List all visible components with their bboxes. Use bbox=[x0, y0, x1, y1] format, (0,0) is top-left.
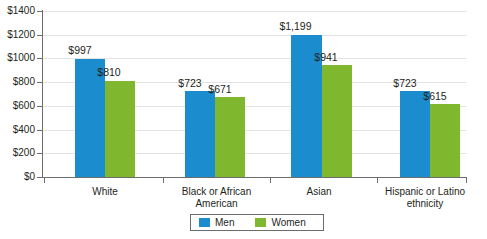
bar-black-men bbox=[185, 91, 215, 177]
y-tick-400 bbox=[37, 130, 43, 131]
y-tick-1000 bbox=[37, 58, 43, 59]
plot-area bbox=[43, 11, 467, 177]
legend-item-women[interactable]: Women bbox=[255, 215, 305, 230]
x-axis-line bbox=[43, 177, 467, 178]
y-label-0: $0 bbox=[0, 172, 35, 182]
value-white-men: $997 bbox=[55, 45, 105, 56]
y-tick-1400 bbox=[37, 11, 43, 12]
x-label-black: Black or African American bbox=[163, 186, 270, 209]
x-separator-left bbox=[44, 178, 45, 183]
legend-label-women: Women bbox=[271, 218, 305, 228]
x-separator-2 bbox=[270, 178, 271, 183]
y-label-200: $200 bbox=[0, 148, 35, 158]
legend-item-men[interactable]: Men bbox=[199, 215, 234, 230]
y-tick-0 bbox=[37, 177, 43, 178]
bar-chart: $1400 $1200 $1000 $800 $600 $400 $200 $0… bbox=[0, 0, 487, 239]
y-tick-1200 bbox=[37, 35, 43, 36]
y-label-600: $600 bbox=[0, 101, 35, 111]
y-tick-200 bbox=[37, 153, 43, 154]
value-asian-women: $941 bbox=[301, 52, 351, 63]
bar-white-women bbox=[105, 81, 135, 177]
legend-swatch-men-icon bbox=[199, 218, 210, 227]
value-asian-men: $1,199 bbox=[268, 21, 323, 32]
value-hispanic-men: $723 bbox=[380, 78, 430, 89]
y-label-1200: $1200 bbox=[0, 30, 35, 40]
y-label-400: $400 bbox=[0, 125, 35, 135]
y-label-1400: $1400 bbox=[0, 6, 35, 16]
value-hispanic-women: $615 bbox=[410, 91, 460, 102]
y-tick-800 bbox=[37, 82, 43, 83]
y-tick-600 bbox=[37, 106, 43, 107]
x-label-hispanic: Hispanic or Latino ethnicity bbox=[370, 186, 480, 209]
bar-hispanic-women bbox=[430, 104, 460, 177]
x-separator-1 bbox=[163, 178, 164, 183]
x-label-asian: Asian bbox=[279, 186, 359, 198]
x-label-white: White bbox=[65, 186, 145, 198]
y-label-1000: $1000 bbox=[0, 53, 35, 63]
value-black-women: $671 bbox=[195, 84, 245, 95]
chart-legend: Men Women bbox=[190, 214, 324, 231]
gridline-1400 bbox=[43, 11, 467, 12]
x-separator-3 bbox=[377, 178, 378, 183]
legend-label-men: Men bbox=[215, 218, 234, 228]
y-label-800: $800 bbox=[0, 77, 35, 87]
legend-swatch-women-icon bbox=[255, 218, 266, 227]
gridline-1200 bbox=[43, 35, 467, 36]
bar-asian-women bbox=[322, 65, 352, 177]
bar-hispanic-men bbox=[400, 91, 430, 177]
bar-black-women bbox=[215, 97, 245, 177]
value-white-women: $810 bbox=[84, 67, 134, 78]
gridline-1000 bbox=[43, 58, 467, 59]
x-separator-right bbox=[466, 178, 467, 183]
